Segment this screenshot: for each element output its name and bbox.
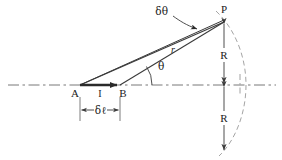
r-offset-label-mask-lower [229,111,239,125]
label-r-upper-on-line: R [220,49,228,61]
wedge-closing-line [80,20,224,85]
label-point-p: P [221,3,227,15]
delta-theta-leader [173,16,197,29]
label-theta: θ [158,60,164,72]
physics-diagram: A B P I δθ θ r δℓ R R R R δℓ [0,0,282,160]
label-delta-l-on-line: δℓ [95,104,106,116]
theta-angle-arc [147,67,153,86]
label-r-distance: r [171,44,175,55]
label-point-a: A [71,87,79,99]
r-offset-label-mask-upper [229,48,239,62]
dashed-field-arc [216,11,246,156]
label-point-b: B [119,87,126,99]
label-current-i: I [98,88,101,99]
label-r-lower-on-line: R [220,112,228,124]
figure-container: A B P I δθ θ r δℓ R R R R δℓ [0,0,282,160]
label-delta-theta: δθ [155,5,168,17]
